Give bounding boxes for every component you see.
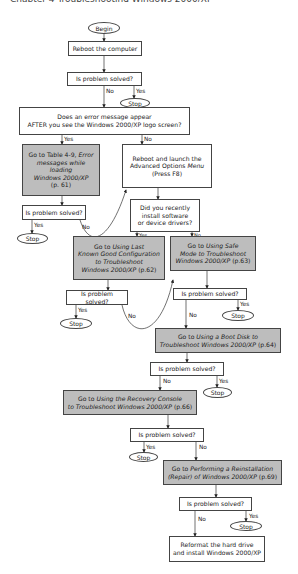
boot-text: Using a Boot Disk to — [196, 333, 258, 340]
problem-solved-decision-boot: Is problem solved? — [150, 362, 224, 376]
begin-terminal: Begin — [88, 22, 120, 34]
connector-lines — [0, 0, 298, 574]
problem-solved-decision-1: Is problem solved? — [67, 72, 142, 86]
reformat-text: Reformat the hard drive — [180, 541, 253, 549]
no-label: No — [106, 88, 114, 94]
yes-label: Yes — [240, 301, 249, 307]
safe-text: Go to — [188, 242, 206, 249]
lkg-text: to Troubleshoot — [95, 258, 143, 266]
no-label: No — [128, 313, 136, 319]
yes-label: Yes — [136, 88, 145, 94]
table-link-text: messages while loading — [25, 159, 97, 174]
boot-text: Troubleshoot Windows 2000/XP — [160, 341, 256, 348]
last-known-good-step: Go to Using Last Known Good Configuratio… — [73, 236, 165, 280]
recovery-text: Go to — [78, 395, 96, 402]
table-link-text: Error — [78, 151, 93, 158]
safe-text: Using Safe — [206, 242, 239, 249]
reformat-text: and install Windows 2000/XP — [173, 549, 261, 557]
advanced-options-step: Reboot and launch the Advanced Options M… — [122, 144, 212, 188]
error-message-decision: Does an error message appear AFTER you s… — [19, 107, 190, 135]
recovery-text: to Troubleshoot Windows 2000/XP — [68, 403, 172, 410]
table-text: Go to Table 4-9, — [28, 151, 78, 158]
advanced-text: Menu — [187, 162, 204, 169]
stop-terminal: Stop — [222, 310, 254, 321]
reinstall-text: (Repair) — [168, 473, 193, 480]
boot-text: Go to — [178, 333, 196, 340]
stop-terminal: Stop — [17, 233, 48, 244]
problem-solved-decision-reinstall: Is problem solved? — [179, 497, 252, 511]
reboot-computer-step: Reboot the computer — [68, 41, 142, 56]
advanced-text: (Press F8) — [152, 170, 182, 178]
lkg-text: Using Last — [112, 243, 144, 250]
error-question-line-2: AFTER you see the Windows 2000/XP logo s… — [28, 121, 182, 129]
safe-text: Windows 2000/XP — [176, 257, 231, 264]
page-ref: (p.64) — [256, 341, 276, 348]
no-label: No — [82, 224, 90, 230]
error-messages-table-step: Go to Table 4-9, Error messages while lo… — [22, 144, 100, 196]
no-label: No — [144, 136, 152, 142]
yes-label: Yes — [64, 136, 73, 142]
reinstallation-step: Go to Performing a Reinstallation (Repai… — [163, 460, 282, 485]
page-ref: (p. 61) — [51, 181, 71, 189]
no-label: No — [163, 378, 171, 384]
stop-terminal: Stop — [60, 318, 92, 329]
safe-mode-step: Go to Using Safe Mode to Troubleshoot Wi… — [170, 236, 256, 271]
recent-text: install software — [142, 212, 188, 220]
no-label: No — [199, 444, 207, 450]
problem-solved-decision-safe: Is problem solved? — [173, 288, 247, 300]
yes-label: Yes — [146, 444, 155, 450]
boot-disk-step: Go to Using a Boot Disk to Troubleshoot … — [155, 328, 281, 353]
recent-install-decision: Did you recently install software or dev… — [130, 199, 200, 232]
lkg-text: Known Good Configuration — [78, 250, 160, 258]
reinstall-text: Performing a Reinstallation — [190, 465, 273, 472]
page-ref: (p.69) — [257, 473, 277, 480]
yes-label: Yes — [219, 378, 228, 384]
yes-label: Yes — [78, 307, 87, 313]
stop-terminal: Stop — [203, 387, 232, 398]
problem-solved-decision-left: Is problem solved? — [22, 205, 86, 220]
table-link-text: Windows 2000/XP — [34, 174, 89, 182]
advanced-text: Reboot and launch the — [132, 155, 201, 163]
page-ref: (p.63) — [230, 257, 250, 264]
yes-label: Yes — [249, 513, 258, 519]
lkg-text: Go to — [94, 243, 112, 250]
yes-label: Yes — [34, 222, 43, 228]
advanced-text: Advanced Options — [130, 162, 188, 169]
problem-solved-decision-recovery: Is problem solved? — [130, 428, 204, 442]
page-ref: (p.62) — [136, 266, 156, 273]
reinstall-text: Go to — [172, 465, 190, 472]
no-label: No — [189, 312, 197, 318]
no-label: No — [198, 516, 206, 522]
error-question-line-1: Does an error message appear — [57, 113, 151, 121]
reformat-install-step: Reformat the hard drive and install Wind… — [169, 536, 265, 562]
reinstall-text: of Windows 2000/XP — [192, 473, 256, 480]
lkg-text: Windows 2000/XP — [82, 266, 137, 273]
recent-text: or device drivers? — [138, 219, 192, 227]
page-ref: (p.66) — [172, 403, 192, 410]
recovery-text: Using the Recovery Console — [96, 395, 182, 402]
safe-text: Mode to Troubleshoot — [180, 250, 246, 258]
stop-terminal: Stop — [230, 521, 262, 531]
problem-solved-decision-lkg: Is problem solved? — [66, 290, 128, 305]
recent-text: Did you recently — [140, 204, 190, 212]
stop-terminal: Stop — [129, 452, 158, 462]
recovery-console-step: Go to Using the Recovery Console to Trou… — [63, 390, 197, 415]
